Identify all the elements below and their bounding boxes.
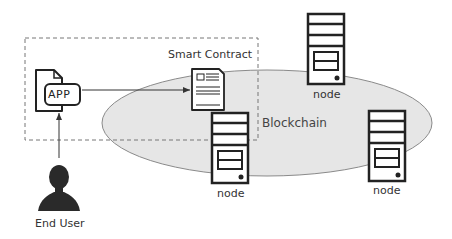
smart-contract-label: Smart Contract bbox=[168, 49, 252, 60]
end-user-label: End User bbox=[35, 218, 84, 229]
smart-contract-document-icon bbox=[192, 69, 224, 110]
app-label: APP bbox=[48, 89, 70, 100]
server-node-bottom-left-icon bbox=[212, 113, 248, 183]
server-node-bottom-right-icon bbox=[369, 111, 405, 181]
end-user-icon bbox=[38, 165, 80, 211]
server-node-top-icon bbox=[308, 14, 344, 84]
node-top-label: node bbox=[313, 89, 340, 100]
node-bottom-left-label: node bbox=[217, 188, 244, 199]
node-bottom-right-label: node bbox=[373, 185, 400, 196]
blockchain-label: Blockchain bbox=[262, 117, 327, 129]
diagram-canvas bbox=[0, 0, 452, 239]
